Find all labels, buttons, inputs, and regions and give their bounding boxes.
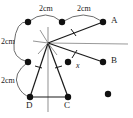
- segment-center-to-a: [48, 22, 103, 43]
- vertex-ray-upleft: [40, 30, 48, 43]
- arc-top-right: [62, 15, 103, 22]
- guide-horizontal-line: [48, 43, 128, 44]
- segment-center-to-d: [30, 43, 48, 97]
- segment-center-to-c: [48, 43, 68, 97]
- point-bottom-right-dot: [105, 91, 111, 97]
- angle-label-x: x: [76, 62, 80, 70]
- arc-top-left: [14, 22, 28, 44]
- point-a-dot: [100, 19, 106, 25]
- point-top-mid-dot: [59, 19, 65, 25]
- dimension-label-top-right: 2cm: [77, 5, 91, 13]
- dimension-label-top-left: 2cm: [39, 5, 53, 13]
- geometry-figure: 2cm 2cm 2cm 2cm A B D C x: [0, 0, 133, 118]
- arc-left-lower: [16, 62, 30, 97]
- point-label-d: D: [26, 101, 33, 110]
- tick-mark-segment-d: [35, 66, 42, 68]
- dimension-label-left-upper: 2cm: [1, 38, 15, 46]
- point-label-c: C: [64, 101, 70, 110]
- point-label-a: A: [111, 16, 118, 25]
- point-top-left-dot: [25, 19, 31, 25]
- point-left-mid-dot: [25, 59, 31, 65]
- arc-top-left-b: [28, 15, 62, 22]
- point-label-b: B: [111, 56, 117, 65]
- vertex-ray-left: [33, 41, 48, 43]
- point-b-dot: [100, 59, 106, 65]
- point-inner-right-dot: [65, 59, 71, 65]
- arc-left-upper: [14, 44, 28, 62]
- dimension-label-left-lower: 2cm: [1, 77, 15, 85]
